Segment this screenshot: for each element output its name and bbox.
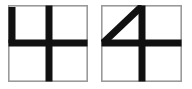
figure-blocky-four [8,5,88,82]
figure-canvas [0,0,192,89]
figure-diagonal-four [101,5,182,82]
diagonal-four-drawing [101,5,182,82]
blocky-four-drawing [8,5,88,82]
